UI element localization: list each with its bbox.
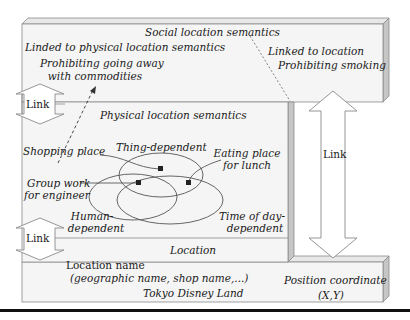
bottom-rule xyxy=(0,309,410,312)
group-work-label-2: for engineer xyxy=(24,189,90,201)
location-name-sub: (geographic name, shop name,...) xyxy=(70,272,248,284)
social-right-line1: Linked to location xyxy=(268,45,364,57)
shopping-place-label: Shopping place xyxy=(23,145,105,157)
social-layer-title: Social location semantics xyxy=(145,26,280,38)
right-link-label: Link xyxy=(323,148,346,160)
physical-layer-title: Physical location semantics xyxy=(100,109,247,121)
thing-dependent-label: Thing-dependent xyxy=(116,141,207,153)
time-dependent-label-1: Time of day- xyxy=(218,210,286,222)
location-layer-title: Location xyxy=(170,244,216,256)
social-left-line3: with commodities xyxy=(40,70,150,82)
social-left-line2: Prohibiting going away xyxy=(40,57,150,69)
lower-left-link-label: Link xyxy=(26,232,49,244)
eating-place-label-1: Eating place xyxy=(212,147,282,159)
group-work-label-1: Group work xyxy=(27,177,90,189)
time-dependent-label-2: dependent xyxy=(222,222,288,234)
social-left-line1: Linded to physical location semantics xyxy=(25,41,225,53)
human-dependent-label-1: Human- xyxy=(62,210,122,222)
position-coordinate-example: (X,Y) xyxy=(318,289,344,301)
social-right-line2: Prohibiting smoking xyxy=(278,59,386,71)
location-name-example: Tokyo Disney Land xyxy=(143,287,244,299)
eating-place-label-2: for lunch xyxy=(212,159,282,171)
location-name-label: Location name xyxy=(66,259,145,271)
location-semantics-diagram: Social location semantics Linded to phys… xyxy=(0,0,410,320)
right-link-double-arrow xyxy=(309,91,357,258)
upper-left-link-label: Link xyxy=(26,98,49,110)
position-coordinate-label: Position coordinate xyxy=(284,274,387,286)
human-dependent-label-2: dependent xyxy=(66,222,126,234)
